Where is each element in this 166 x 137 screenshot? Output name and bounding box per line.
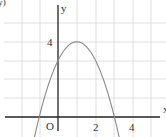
parabola-graph: y x O 2 4 4 .y) bbox=[0, 0, 166, 137]
y-tick-4: 4 bbox=[47, 36, 53, 48]
origin-label: O bbox=[46, 120, 54, 132]
x-tick-2: 2 bbox=[93, 121, 99, 133]
y-axis-label: y bbox=[61, 2, 67, 14]
corner-text-fragment: .y) bbox=[0, 0, 6, 7]
axes bbox=[5, 5, 160, 131]
x-tick-4: 4 bbox=[129, 121, 135, 133]
x-axis-label: x bbox=[163, 103, 166, 115]
